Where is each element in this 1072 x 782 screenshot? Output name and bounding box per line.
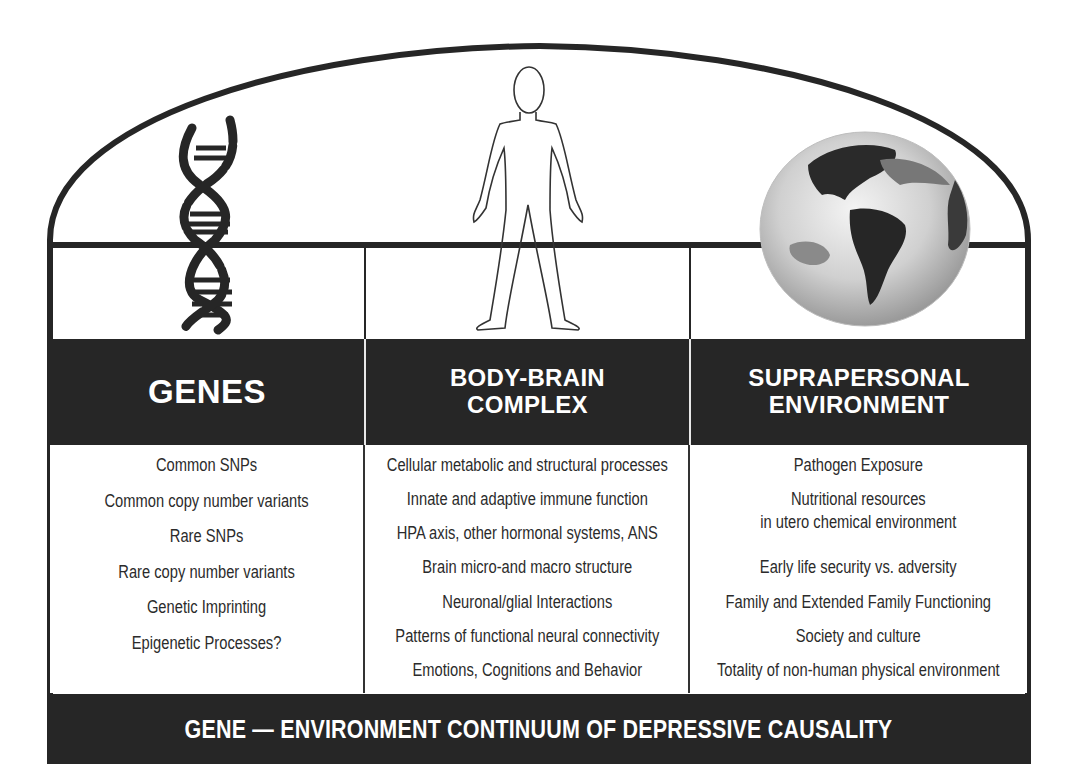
list-item: Patterns of functional neural connectivi… xyxy=(395,625,659,659)
header-suprapersonal-environment: SUPRAPERSONAL ENVIRONMENT xyxy=(689,339,1027,445)
list-item: Rare SNPs xyxy=(170,525,244,561)
list-item: Neuronal/glial Interactions xyxy=(442,591,612,625)
header-suprapersonal-line-2: ENVIRONMENT xyxy=(748,392,969,419)
diagram-title: GENE — ENVIRONMENT CONTINUUM OF DEPRESSI… xyxy=(185,715,893,744)
list-item: Common copy number variants xyxy=(105,490,309,526)
human-body-outline-icon xyxy=(473,67,582,330)
list-item: Brain micro-and macro structure xyxy=(422,556,632,590)
list-item: Emotions, Cognitions and Behavior xyxy=(412,659,642,693)
list-item: Rare copy number variants xyxy=(118,561,294,597)
header-genes: GENES xyxy=(50,339,364,445)
globe-americas-icon xyxy=(760,132,970,326)
list-item: Innate and adaptive immune function xyxy=(406,488,647,522)
list-item: Genetic Imprinting xyxy=(147,596,266,632)
list-item: Totality of non-human physical environme… xyxy=(717,659,1000,693)
list-item: in utero chemical environment xyxy=(761,511,957,556)
dna-helix-icon xyxy=(183,120,233,330)
list-item: Pathogen Exposure xyxy=(794,454,923,488)
suprapersonal-list: Pathogen Exposure Nutritional resources … xyxy=(688,445,1027,693)
header-genes-line-1: GENES xyxy=(148,374,266,411)
genes-list: Common SNPs Common copy number variants … xyxy=(50,445,363,693)
list-item: Epigenetic Processes? xyxy=(132,632,282,668)
list-item: Family and Extended Family Functioning xyxy=(726,591,992,625)
header-body-brain-line-2: COMPLEX xyxy=(450,392,605,419)
column-header-band: GENES BODY-BRAIN COMPLEX SUPRAPERSONAL E… xyxy=(50,339,1027,445)
footer-band: GENE — ENVIRONMENT CONTINUUM OF DEPRESSI… xyxy=(50,694,1027,764)
list-item: Common SNPs xyxy=(156,454,257,490)
body-brain-list: Cellular metabolic and structural proces… xyxy=(363,445,688,693)
list-item: Society and culture xyxy=(796,625,921,659)
list-item: Early life security vs. adversity xyxy=(760,556,957,590)
header-body-brain-complex: BODY-BRAIN COMPLEX xyxy=(364,339,689,445)
factor-lists: Common SNPs Common copy number variants … xyxy=(50,445,1027,693)
list-item: HPA axis, other hormonal systems, ANS xyxy=(396,522,657,556)
list-item: Cellular metabolic and structural proces… xyxy=(386,454,667,488)
header-body-brain-line-1: BODY-BRAIN xyxy=(450,365,605,392)
list-item: Nutritional resources xyxy=(791,488,926,511)
header-suprapersonal-line-1: SUPRAPERSONAL xyxy=(748,365,969,392)
